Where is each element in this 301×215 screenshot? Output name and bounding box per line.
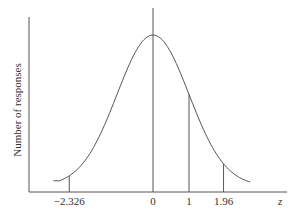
x-axis-label: z bbox=[277, 195, 283, 207]
x-tick-label: 1.96 bbox=[214, 195, 234, 207]
x-tick-label: 0 bbox=[150, 195, 156, 207]
x-tick-label: 1 bbox=[186, 195, 192, 207]
normal-curve-chart: Number of responses z −2.326011.96 bbox=[0, 0, 301, 215]
y-axis-label: Number of responses bbox=[11, 63, 23, 156]
normal-curve bbox=[53, 35, 250, 182]
x-tick-label: −2.326 bbox=[54, 195, 85, 207]
